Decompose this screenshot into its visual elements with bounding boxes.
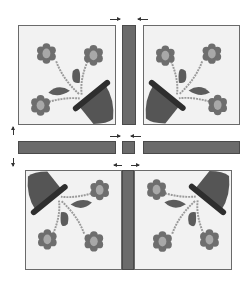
arrow-right-icon bbox=[131, 165, 139, 166]
arrow-right-icon bbox=[110, 136, 120, 137]
arrow-left-icon bbox=[114, 165, 122, 166]
arrow-up-icon bbox=[13, 127, 14, 135]
cornerstone bbox=[122, 141, 135, 154]
block-top-right bbox=[143, 25, 240, 125]
sash-vertical-bottom bbox=[122, 170, 134, 270]
sash-vertical-top bbox=[122, 25, 136, 125]
flower-pot-applique-icon bbox=[19, 26, 115, 124]
flower-pot-applique-icon bbox=[144, 26, 239, 124]
arrow-right-icon bbox=[110, 19, 120, 20]
sash-horizontal-right bbox=[143, 141, 240, 154]
flower-pot-applique-icon bbox=[135, 171, 231, 269]
arrow-left-icon bbox=[131, 136, 141, 137]
block-bottom-right bbox=[134, 170, 232, 270]
arrow-left-icon bbox=[138, 19, 148, 20]
block-top-left bbox=[18, 25, 116, 125]
arrow-down-icon bbox=[13, 158, 14, 166]
sash-horizontal-left bbox=[18, 141, 116, 154]
block-bottom-left bbox=[25, 170, 122, 270]
flower-pot-applique-icon bbox=[26, 171, 121, 269]
